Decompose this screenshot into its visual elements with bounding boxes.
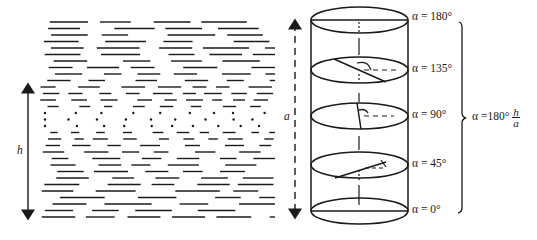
a-label: a [284, 110, 290, 122]
angle-label-45: α = 45° [412, 157, 446, 169]
cylinder [311, 7, 408, 224]
right-brace [458, 22, 466, 213]
cholesteric-diagram [0, 0, 537, 240]
angle-label-135: α = 135° [412, 62, 452, 74]
angle-label-0: α = 0° [412, 203, 441, 215]
angle-label-180: α = 180° [412, 10, 452, 22]
angle-label-90: α = 90° [412, 108, 446, 120]
formula: α =180° h a [472, 107, 520, 128]
formula-denominator: a [512, 118, 520, 128]
formula-lhs: α =180° [472, 110, 509, 122]
formula-fraction: h a [512, 107, 520, 128]
layer-dashes [40, 22, 275, 217]
h-label: h [17, 144, 23, 156]
